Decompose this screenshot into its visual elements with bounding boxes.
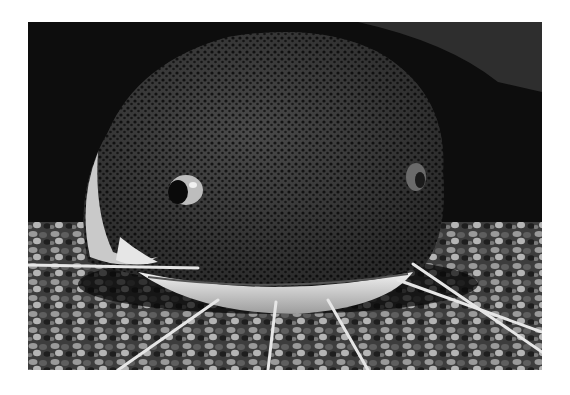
catfish-illustration — [28, 22, 542, 370]
catfish-photo — [28, 22, 542, 370]
